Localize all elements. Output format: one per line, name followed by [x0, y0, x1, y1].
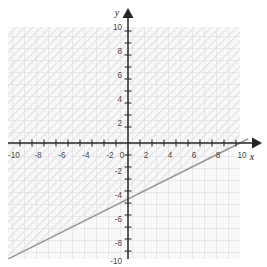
graph-canvas: -10 -8 -6 -4 -2 0 2 4 6 8 10 10 8 6 4 2 … [0, 0, 267, 267]
y-tick-label: 2 [117, 119, 122, 128]
y-tick-label: -8 [115, 239, 123, 248]
y-tick-label: -4 [115, 191, 123, 200]
x-tick-label: -6 [58, 151, 66, 160]
x-tick-label: -8 [34, 151, 42, 160]
y-axis-label: y [114, 7, 120, 18]
y-tick-label: -6 [115, 215, 123, 224]
x-tick-label: 6 [192, 151, 197, 160]
y-tick-label: -10 [110, 257, 122, 266]
y-tick-label: -2 [115, 167, 123, 176]
x-tick-label-origin: 0 [120, 151, 125, 160]
y-tick-label: 8 [117, 47, 122, 56]
x-tick-label: 4 [168, 151, 173, 160]
x-tick-label: -4 [82, 151, 90, 160]
y-tick-label: 10 [113, 23, 123, 32]
x-tick-label: 8 [216, 151, 221, 160]
x-tick-label: 10 [237, 151, 247, 160]
y-tick-label: 4 [117, 95, 122, 104]
x-tick-label: -2 [106, 151, 114, 160]
x-tick-label: -10 [8, 151, 20, 160]
x-axis-label: x [249, 151, 255, 162]
coordinate-plane-graph: -10 -8 -6 -4 -2 0 2 4 6 8 10 10 8 6 4 2 … [0, 0, 267, 267]
x-tick-label: 2 [144, 151, 149, 160]
y-tick-label: 6 [117, 71, 122, 80]
